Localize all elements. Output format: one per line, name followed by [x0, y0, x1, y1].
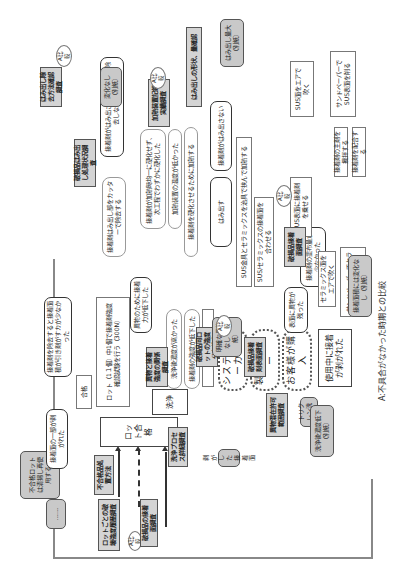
note-label: 剥がした接着面	[202, 453, 256, 463]
note-coat-no-change: 接着面積には変化なし（別紙）	[348, 255, 372, 317]
cause-label: SUS面をエアで吹く	[294, 65, 310, 113]
fact-surface-foreign: 表面に異物が残った	[284, 287, 308, 333]
comparison-oval: A比較	[216, 315, 232, 337]
comparison-oval: A比較	[56, 45, 72, 67]
pass-box: 合格	[76, 375, 92, 409]
cause-label: 接着剤はみ出し部をカッターで除去する	[106, 181, 122, 253]
note-ellipsis: ……	[46, 499, 66, 529]
wash-concentration-label: 洗浄後濃度が高かった	[170, 319, 178, 379]
fact-label: 接着面の一部が剥がれた	[49, 413, 65, 465]
note-wash-conc: 洗浄後濃度低下（別紙）	[310, 405, 334, 457]
cause-label: 接着剤を硬化させるために加熱する	[187, 144, 195, 240]
comparison-label: A比較	[277, 189, 291, 203]
cause-label: 接着剤が加熱時均一に硬化せず、次工程でわずかに硬化した	[145, 133, 161, 225]
fact-label: 接着剤がはみ出さない	[217, 106, 225, 166]
investigation-label: 破損品接着剤表面調査	[247, 341, 263, 373]
investigation-defect-method: 不合格品処置方法	[94, 455, 114, 495]
connector	[165, 452, 167, 527]
investigation-label: 加熱装置記録実績調査	[151, 83, 167, 123]
frame-line-bottom	[371, 479, 373, 559]
fact-extrude: はみ出す	[210, 177, 232, 247]
investigation-label: 異物混在許可範囲調査	[269, 397, 285, 433]
investigation-label: 洗浄プロセス詳細調査	[170, 431, 186, 463]
cause-adhesive-mix: 接着剤の主剤を攪拌する	[334, 127, 348, 177]
investigation-label: 異物と接着強度の関係調査	[145, 351, 168, 383]
cause-label: サンドペーパーでSUS表面を削る	[335, 55, 351, 113]
investigation-lot-strength: ロットごとの破壊強度履歴調査	[98, 499, 120, 551]
cause-trim-cutter: 接着剤はみ出し部をカッターで除去する	[102, 177, 126, 257]
cause-adhesive-blend: 接着剤を配合する	[352, 127, 366, 177]
investigation-foreign-allow: 異物混在許可範囲調査	[266, 393, 288, 437]
investigation-broken-surface: 破損品接着剤表面調査	[244, 337, 266, 377]
pass-label: 合格	[80, 386, 88, 398]
investigation-wash-process: 洗浄プロセス詳細調査	[168, 427, 188, 467]
diagram-caption: A:不具合がなかった時期との比較	[376, 281, 387, 401]
cause-ceramic-air: セラミックス面をエアで吹く	[318, 251, 336, 307]
fact-label: 接着剤を除去すると接着面積が引き剤がすカが少なかった	[46, 301, 69, 373]
cause-label: 接着剤を配合する	[351, 131, 367, 173]
fact-part-peeled: 接着面の一部が剥がれた	[46, 409, 68, 469]
investigation-label: 不合格品処置方法	[96, 459, 112, 491]
investigation-label: 破損品の接着面調査	[141, 503, 157, 543]
cause-label: ロット（1１個）中1個で接着剤強度確認試験を行う（300N）	[105, 301, 121, 403]
lot-pass-box: ロット合格	[100, 417, 178, 447]
cause-label: 加熱装置の温度が低かった	[171, 143, 179, 215]
cause-label: セラミックス面をエアで吹く	[319, 255, 335, 303]
lot-pass-label: ロット合格	[124, 421, 154, 443]
fact-foreign-matter-low: 異物のために接着力が低下した	[130, 277, 152, 333]
connector	[118, 449, 120, 497]
fact-adhesive-not-extruded-2: 接着剤がはみ出さない	[210, 101, 232, 171]
comparison-label: A比較	[151, 71, 165, 85]
investigation-broken-state: 破損品の接着面調査	[140, 499, 158, 547]
cause-heat-temp-low: 加熱装置の温度が低かった	[168, 129, 182, 229]
note-label: 洗浄後濃度低下（別紙）	[314, 409, 330, 453]
investigation-broken-adhesive-surface: 破損品接着面調査	[284, 227, 306, 267]
fact-label: はみ出す	[217, 200, 225, 224]
cause-lot-test: ロット（1１個）中1個で接着剤強度確認試験を行う（300N）	[96, 297, 130, 407]
investigation-label: ロットごとの破壊強度履歴調査	[101, 503, 117, 547]
investigation-label: はみ出し除去方法確認調査	[39, 71, 62, 103]
top-event-label: 使用中に接着が剥がれた	[325, 333, 345, 383]
fishbone-diagram: ロット合格 洗浄 洗浄後濃度が高かった 接着剤の強度が低下した 出荷 システムメ…	[0, 0, 398, 587]
customer-node: お客様が購入	[282, 329, 312, 391]
cause-jig-clamp: SUS金具とセラミックスを治具で挟んで加熱する	[236, 137, 252, 287]
comparison-oval: A比較	[276, 185, 292, 207]
fact-adhesive-spread-small: 接着剤を除去すると接着面積が引き剤がすカが少なかった	[44, 297, 72, 377]
note-label: ……	[52, 508, 60, 520]
cause-sandpaper-sus: サンドペーパーでSUS表面を削る	[330, 51, 356, 117]
investigation-label: 破損品接着面調査	[287, 231, 303, 263]
note-label: はみ出し量大（別紙）	[224, 23, 240, 63]
investigation-label: 破損品はみ出し処理状況調査	[73, 143, 96, 183]
top-event-box: 使用中に接着が剥がれた	[318, 329, 352, 387]
investigation-extrude-dir: はみ出し除去方法確認調査	[40, 67, 62, 107]
investigation-extrude-treat: 破損品はみ出し処理状況調査	[74, 139, 96, 187]
customer-label: お客様が購入	[286, 334, 309, 386]
note-label: 接着面積には変化なし（別紙）	[352, 259, 368, 313]
investigation-extrude-shape: はみ出しの形状、量確認	[186, 27, 202, 107]
frame-line-left	[53, 558, 373, 560]
cause-label: SUS表面に接着剤を乗せる	[293, 181, 309, 233]
cause-label: SUS金具とセラミックスを治具で挟んで加熱する	[240, 146, 248, 278]
wash-label: 洗浄	[166, 395, 175, 409]
cause-cure-uneven: 接着剤が加熱時均一に硬化せず、次工程でわずかに硬化した	[140, 129, 166, 229]
fact-label: 異物のために接着力が低下した	[133, 281, 149, 329]
cause-label: SUS/セラミックスの接着面を合わせる	[256, 201, 272, 283]
note-peeled-surface: 剥がした接着面	[218, 449, 240, 467]
note-label: 変化なし（別紙）	[103, 71, 119, 103]
note-heat-no-change: 変化なし（別紙）	[100, 67, 122, 107]
cause-sus-ceramic-align: SUS/セラミックスの接着面を合わせる	[254, 197, 274, 287]
note-extrude-big: はみ出し量大（別紙）	[220, 19, 244, 67]
investigation-foreign-relation: 異物と接着強度の関係調査	[146, 347, 168, 387]
comparison-oval: A比較	[150, 67, 166, 89]
cause-label: 接着剤の主剤を攪拌する	[333, 131, 349, 173]
fact-label: 表面に異物が残った	[288, 291, 304, 329]
comparison-label: A比較	[57, 49, 71, 63]
cause-sus-air: SUS面をエアで吹く	[290, 61, 314, 117]
investigation-label: はみ出しの形状、量確認	[190, 34, 198, 100]
comparison-label: A比較	[217, 319, 231, 333]
wash-box: 洗浄	[152, 389, 188, 415]
cause-cure-heat: 接着剤を硬化させるために加熱する	[184, 127, 198, 257]
